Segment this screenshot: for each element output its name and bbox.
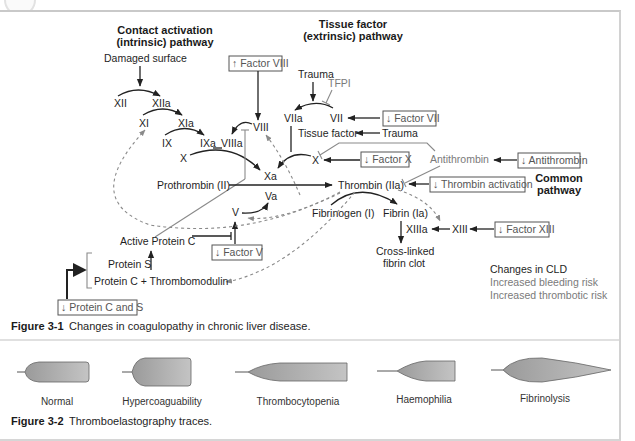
node-clot-line1: Cross-linked: [376, 245, 435, 257]
cld-legend: Changes in CLD Increased bleeding risk I…: [490, 263, 608, 301]
node-viiia: VIIIa: [221, 137, 243, 149]
svg-text:↓ Antithrombin: ↓ Antithrombin: [521, 154, 588, 166]
svg-text:↓ Factor V: ↓ Factor V: [215, 246, 263, 258]
node-x-intrinsic: X: [180, 152, 187, 164]
node-trauma-right: Trauma: [382, 127, 418, 139]
protein-bracket: [87, 253, 92, 288]
svg-text:Increased bleeding risk: Increased bleeding risk: [490, 276, 599, 288]
node-protein-s: Protein S: [108, 258, 151, 270]
change-box-protein-c-and-s: ↓ Protein C and S: [58, 300, 143, 315]
node-viia: VIIa: [284, 112, 303, 124]
trace-label-normal: Normal: [41, 396, 73, 407]
node-fibrin: Fibrin (Ia): [383, 207, 428, 219]
trace-label-hypercoaguability: Hypercoaguability: [122, 396, 202, 407]
svg-text:↓ Thrombin activation: ↓ Thrombin activation: [433, 178, 533, 190]
node-xiiia: XIIIa: [406, 223, 428, 235]
svg-text:↓ Factor X: ↓ Factor X: [364, 153, 412, 165]
node-va: Va: [265, 190, 277, 202]
svg-text:(intrinsic) pathway: (intrinsic) pathway: [116, 36, 214, 48]
node-xia: XIa: [178, 117, 194, 129]
svg-text:↓ Factor VII: ↓ Factor VII: [386, 112, 440, 124]
arrow-vii-to-viia: [295, 103, 333, 110]
node-x-extrinsic: X: [312, 154, 319, 166]
figure-3-1-caption: Figure 3-1 Changes in coagulopathy in ch…: [11, 320, 311, 332]
node-xii: XII: [114, 97, 127, 109]
trace-hypercoaguability: [122, 358, 191, 386]
trace-label-thrombocytopenia: Thrombocytopenia: [257, 396, 340, 407]
svg-text:Common: Common: [535, 172, 583, 184]
feedback-thrombin-to-viii: [266, 135, 300, 195]
trace-fibrinolysis: [491, 358, 611, 382]
arrow-fibrinogen-to-fibrin: [331, 192, 397, 205]
intrinsic-pathway-heading: Contact activation (intrinsic) pathway: [116, 24, 214, 48]
node-xi: XI: [139, 117, 149, 129]
change-box-factor-x: ↓ Factor X: [361, 152, 412, 167]
svg-text:Figure 3-1: Figure 3-1: [11, 320, 64, 332]
trace-haemophilia: [377, 361, 455, 381]
node-prothrombin: Prothrombin (II): [157, 179, 230, 191]
node-protein-c-thrombomodulin: Protein C + Thrombomodulin: [94, 275, 228, 287]
svg-text:↑ Factor VIII: ↑ Factor VIII: [232, 57, 289, 69]
trace-label-haemophilia: Haemophilia: [396, 394, 452, 405]
node-vii: VII: [330, 112, 343, 124]
feedback-thrombin-to-protein-c: [226, 192, 355, 282]
svg-text:Thromboelastography traces.: Thromboelastography traces.: [69, 415, 212, 427]
extrinsic-pathway-heading: Tissue factor (extrinsic) pathway: [303, 18, 404, 42]
svg-text:pathway: pathway: [537, 184, 582, 196]
change-box-factor-vii: ↓ Factor VII: [383, 111, 440, 126]
svg-text:↓ Protein C and S: ↓ Protein C and S: [61, 301, 143, 313]
change-box-factor-v: ↓ Factor V: [212, 245, 263, 260]
node-clot-line2: fibrin clot: [383, 257, 425, 269]
arrow-ix-to-ixa: [165, 129, 204, 136]
node-ix: IX: [162, 137, 172, 149]
arrow-v-to-va: [242, 203, 268, 213]
trace-thrombocytopenia: [235, 363, 347, 381]
svg-text:(extrinsic) pathway: (extrinsic) pathway: [303, 30, 404, 42]
node-xiia: XIIa: [152, 97, 171, 109]
trace-normal: [17, 362, 89, 382]
common-pathway-heading: Common pathway: [535, 172, 583, 196]
node-v: V: [232, 206, 239, 218]
inhibit-tfpi-line: [326, 90, 332, 103]
node-thrombin: Thrombin (IIa): [338, 179, 404, 191]
node-damaged-surface: Damaged surface: [104, 52, 187, 64]
node-tfpi: TFPI: [328, 77, 351, 89]
arrow-protein-c-and-s-box: [67, 270, 84, 299]
change-box-antithrombin: ↓ Antithrombin: [518, 153, 588, 168]
change-box-factor-xiii: ↓ Factor XIII: [495, 222, 555, 237]
svg-text:Tissue factor: Tissue factor: [319, 18, 388, 30]
arrow-xi-to-xia: [143, 109, 182, 115]
arrow-xii-to-xiia: [118, 90, 160, 96]
arrow-x-to-xa-intrinsic: [190, 150, 260, 170]
node-antithrombin: Antithrombin: [430, 153, 489, 165]
svg-text:Changes in CLD: Changes in CLD: [490, 263, 567, 275]
change-box-factor-viii: ↑ Factor VIII: [229, 56, 289, 71]
svg-text:↓ Factor XIII: ↓ Factor XIII: [498, 223, 555, 235]
node-xiii: XIII: [452, 223, 468, 235]
svg-text:Contact activation: Contact activation: [117, 24, 213, 36]
node-active-protein-c: Active Protein C: [120, 235, 196, 247]
svg-text:Changes in coagulopathy in chr: Changes in coagulopathy in chronic liver…: [69, 320, 311, 332]
svg-text:Increased thrombotic risk: Increased thrombotic risk: [490, 289, 608, 301]
change-box-thrombin-activation: ↓ Thrombin activation: [430, 177, 533, 192]
figure-3-2-caption: Figure 3-2 Thromboelastography traces.: [11, 415, 212, 427]
arrow-viii-to-viiia: [232, 122, 252, 134]
trace-label-fibrinolysis: Fibrinolysis: [520, 393, 570, 404]
svg-text:Figure 3-2: Figure 3-2: [11, 415, 64, 427]
node-fibrinogen: Fibrinogen (I): [312, 207, 374, 219]
node-viii: VIII: [253, 121, 269, 133]
node-xa: Xa: [264, 170, 277, 182]
node-ixa: IXa: [200, 137, 216, 149]
node-tissue-factor: Tissue factor: [298, 127, 358, 139]
